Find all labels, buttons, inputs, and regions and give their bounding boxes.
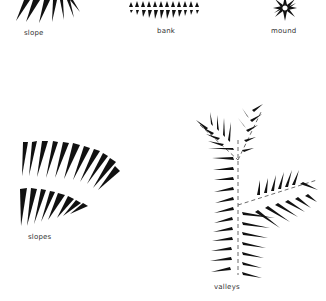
slope-label: slope (24, 29, 44, 37)
slopes-label: slopes (28, 233, 51, 241)
valleys-symbol-icon (196, 104, 318, 278)
bank-symbol-icon (129, 1, 199, 19)
hachure-diagram (0, 0, 326, 301)
slope-symbol-icon (16, 0, 80, 23)
bank-label: bank (157, 27, 175, 35)
mound-symbol-icon (273, 0, 297, 21)
mound-label: mound (271, 27, 296, 35)
valleys-label: valleys (214, 283, 240, 291)
slopes-symbol-icon (20, 141, 120, 226)
